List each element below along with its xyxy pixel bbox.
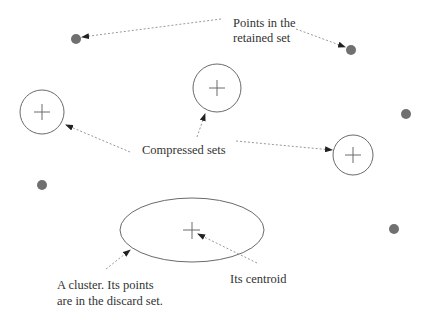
arrow-to-compressed-left — [66, 125, 130, 152]
plus-icon — [34, 104, 50, 120]
retained-point — [401, 109, 411, 119]
label-cluster-line2: are in the discard set. — [57, 294, 163, 308]
retained-points — [37, 34, 411, 234]
retained-point — [389, 224, 399, 234]
label-compressed: Compressed sets — [142, 143, 226, 157]
label-retained-line2: retained set — [233, 31, 291, 45]
compressed-set — [193, 64, 241, 112]
plus-icon — [209, 80, 225, 96]
compressed-set — [20, 90, 64, 134]
retained-point — [71, 34, 81, 44]
compressed-set — [333, 135, 373, 175]
compressed-sets — [20, 64, 373, 175]
cluster — [120, 198, 264, 262]
arrow-to-centroid — [198, 234, 257, 263]
retained-point — [37, 180, 47, 190]
arrow-to-retained-right — [296, 29, 345, 47]
arrow-to-compressed-right — [236, 141, 332, 150]
label-cluster-line1: A cluster. Its points — [57, 278, 154, 292]
label-retained-line1: Points in the — [233, 16, 296, 30]
arrow-to-compressed-top — [197, 114, 205, 137]
arrow-to-retained-left — [82, 19, 221, 37]
diagram-canvas: Points in the retained set Compressed se… — [0, 0, 427, 319]
retained-point — [346, 45, 356, 55]
label-centroid: Its centroid — [230, 272, 287, 286]
arrow-to-cluster — [106, 250, 130, 269]
centroid-plus-icon — [183, 222, 200, 239]
plus-icon — [345, 147, 361, 163]
